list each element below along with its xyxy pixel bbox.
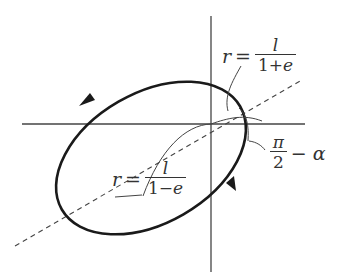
fraction: l 1−e — [145, 159, 186, 198]
den-e: e — [283, 55, 293, 75]
numerator-pi: π — [271, 133, 286, 151]
den-part: 1− — [148, 178, 173, 198]
denominator-2: 2 — [270, 151, 287, 172]
var-r: r — [222, 45, 231, 67]
label-angle: π 2 − α — [270, 133, 330, 172]
numerator: l — [271, 36, 280, 54]
direction-arrow-top-icon — [79, 93, 95, 106]
minus-alpha: − α — [291, 142, 326, 164]
leader-angle — [249, 141, 265, 150]
var-r: r — [112, 168, 121, 190]
label-r-aphelion: r = l 1−e — [112, 159, 186, 198]
denominator: 1−e — [145, 177, 186, 198]
equals: = — [235, 45, 251, 67]
den-e: e — [173, 178, 183, 198]
numerator: l — [161, 159, 170, 177]
label-r-perihelion: r = l 1+e — [222, 36, 296, 75]
fraction-pi-2: π 2 — [270, 133, 287, 172]
orbit-ellipse — [29, 50, 272, 266]
fraction: l 1+e — [255, 36, 296, 75]
den-part: 1+ — [258, 55, 283, 75]
denominator: 1+e — [255, 54, 296, 75]
equals: = — [125, 168, 141, 190]
